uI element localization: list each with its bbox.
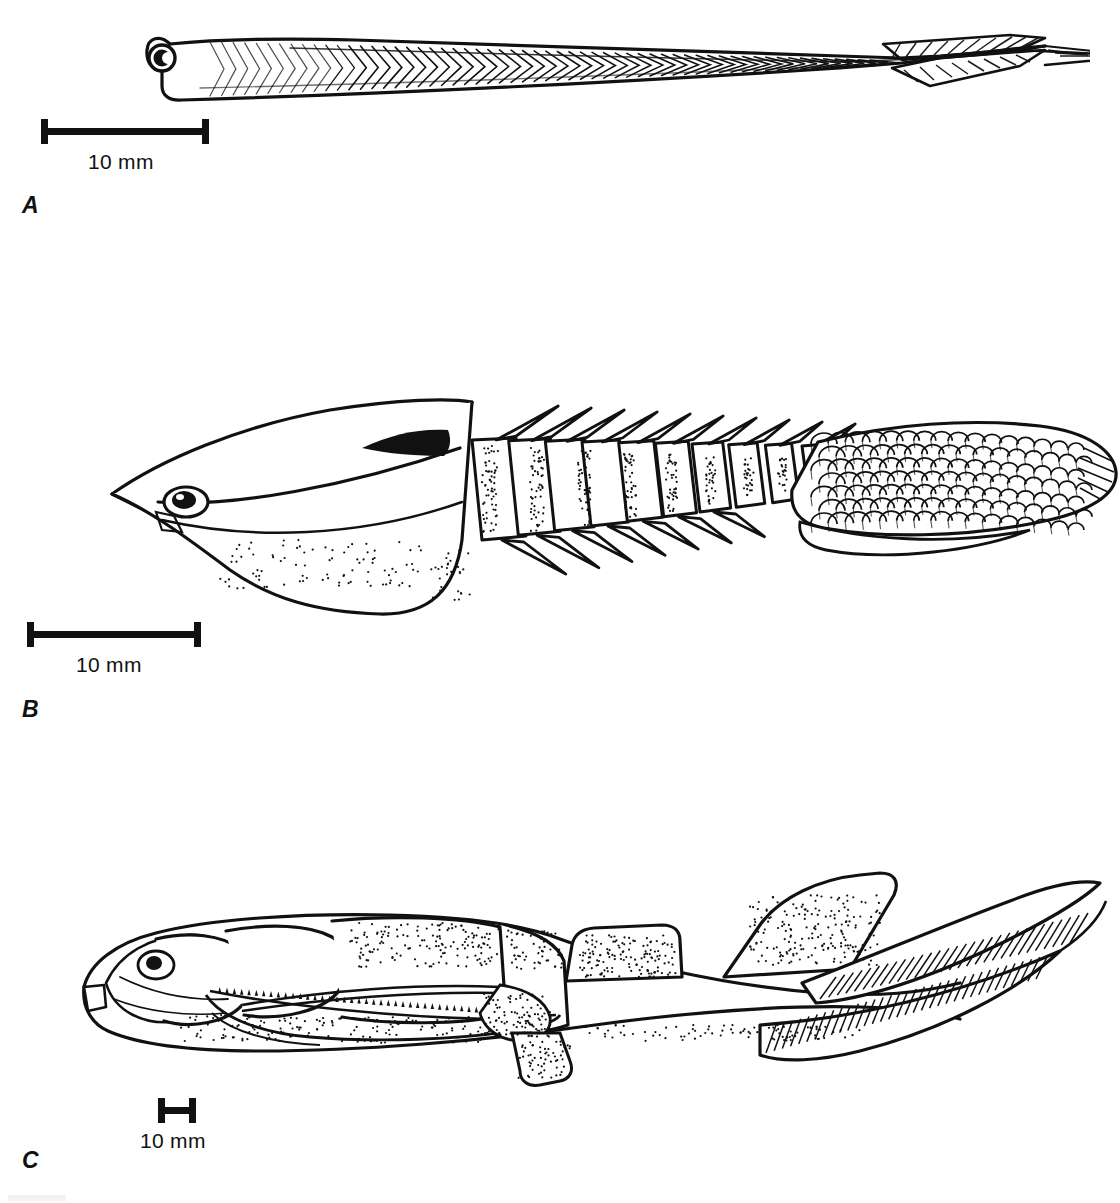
scale-bar-cap-left bbox=[27, 622, 34, 647]
eye-a bbox=[149, 45, 175, 71]
eel-like-animal-illustration bbox=[140, 8, 1090, 118]
scale-bar-label-c: 10 mm bbox=[140, 1129, 206, 1153]
scale-bar-cap-right bbox=[194, 622, 201, 647]
scale-bar-cap-right bbox=[189, 1098, 196, 1123]
scale-bar-c bbox=[158, 1098, 196, 1123]
scale-bar-label-b: 10 mm bbox=[76, 653, 142, 677]
armoured-segmented-fish-illustration bbox=[100, 390, 1120, 640]
scale-bar-cap-left bbox=[41, 119, 48, 144]
organism-drawing-a bbox=[140, 8, 1090, 118]
page-artifact bbox=[8, 1195, 66, 1201]
scale-bar-cap-left bbox=[158, 1098, 165, 1123]
organism-drawing-c bbox=[60, 865, 1120, 1100]
panel-label-c: C bbox=[22, 1147, 39, 1174]
scale-bar-line bbox=[27, 631, 201, 638]
scale-bar-label-a: 10 mm bbox=[88, 150, 154, 174]
scale-bar-a bbox=[41, 119, 209, 144]
scale-bar-b bbox=[27, 622, 201, 647]
scale-bar-cap-right bbox=[202, 119, 209, 144]
panel-label-b: B bbox=[22, 696, 39, 723]
organism-drawing-b bbox=[100, 390, 1120, 640]
scale-bar-line bbox=[41, 128, 209, 135]
figure-plate: 10 mm A bbox=[0, 0, 1120, 1203]
eye-b bbox=[164, 487, 208, 517]
placoderm-fish-illustration bbox=[60, 865, 1120, 1100]
panel-label-a: A bbox=[22, 192, 39, 219]
